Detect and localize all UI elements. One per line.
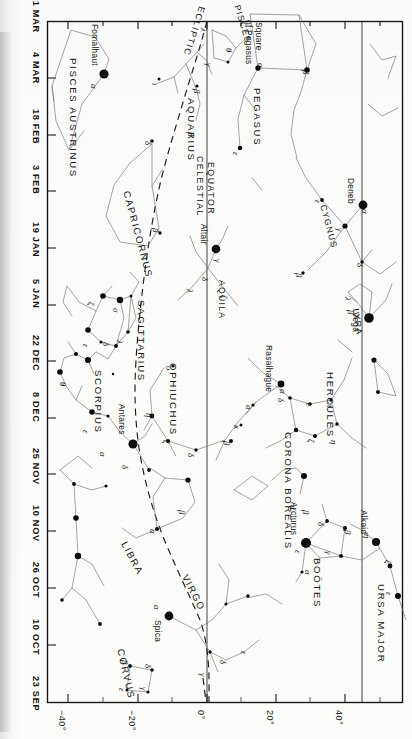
constellation-label-ophiuchus: OPHIUCHUS [168, 363, 178, 436]
bayer-label: δ [276, 398, 285, 402]
constellation-label-scorpius: SCORPIUS [93, 370, 103, 434]
ecliptic-curve-secondary [203, 678, 206, 702]
date-tick-label: 3 FEB [31, 165, 40, 195]
faint-star-layer [57, 61, 401, 694]
declination-tick-label: 40° [334, 710, 343, 725]
date-tick-label: 19 JAN [31, 222, 40, 257]
constellation-lines-libra [122, 468, 195, 538]
star-dot-antares [128, 439, 137, 448]
bayer-label: β [186, 132, 195, 136]
star-label-fomalhaut: Fomalhaut [91, 24, 99, 66]
date-tick-label: 26 OCT [31, 562, 40, 598]
bayer-label: β [301, 70, 310, 74]
star-label-altair: Altair [200, 224, 208, 245]
bayer-label: α [303, 570, 312, 575]
star-dot-alkaid [372, 538, 380, 546]
bayer-label: ε [231, 152, 240, 156]
star-label-spica: Spica [154, 620, 162, 642]
bayer-label: λ [115, 340, 124, 344]
bottom-axis-ticks [68, 694, 380, 702]
top-axis-ticks [68, 21, 380, 29]
date-tick-label: 10 OCT [31, 619, 40, 655]
declination-tick-label: 0° [196, 710, 205, 720]
bayer-label: β [192, 89, 201, 93]
constellation-lines-pisces [212, 30, 244, 62]
bayer-label: ζ [161, 440, 170, 444]
bayer-label: β [151, 228, 160, 232]
date-tick-label: 22 DEC [31, 335, 40, 371]
bayer-label: β [346, 310, 355, 314]
bayer-label: π [325, 403, 334, 408]
bayer-label: β [177, 510, 186, 514]
bayer-label: γ [198, 673, 207, 677]
bayer-label: γ [139, 687, 148, 691]
bayer-label: α [152, 605, 161, 610]
bayer-label: ε [117, 688, 126, 692]
date-tick-label: 8 DEC [31, 392, 40, 423]
bayer-label: α [244, 405, 253, 410]
bayer-label: δ [120, 465, 129, 469]
star-dot-rasalhague [278, 381, 285, 388]
bayer-label: ε [239, 651, 248, 655]
date-tick-label: 4 MAR [31, 52, 40, 84]
constellation-label-pisces-austrinus: PISCES AUSTRINUS [68, 58, 78, 178]
bayer-label: β [222, 441, 231, 445]
bayer-label: α [148, 529, 157, 534]
bayer-label: ι [150, 83, 159, 86]
date-tick-label: 10 NOV [31, 505, 40, 542]
star-dot-spica [165, 612, 174, 621]
bayer-label: α [360, 209, 369, 214]
star-chart: 21 MAR4 MAR18 FEB3 FEB19 JAN5 JAN22 DEC8… [0, 0, 412, 739]
bayer-label: ε [304, 403, 313, 407]
star-label-rasalhague: Rasalhague [265, 345, 273, 392]
bayer-label: α [98, 452, 107, 457]
bayer-label: γ [335, 228, 344, 232]
constellation-lines-pisces-austrinus [52, 30, 109, 150]
constellation-label-pegasus: PEGASUS [252, 88, 262, 146]
bayer-label: β [294, 273, 303, 277]
bayer-label: ζ [383, 560, 392, 564]
star-label-deneb: Deneb [347, 178, 355, 204]
bayer-label: ζ [306, 439, 315, 443]
bayer-label: θ [224, 48, 233, 52]
bayer-label: η [144, 413, 153, 417]
bayer-label: λ [199, 28, 208, 32]
bayer-label: δ [200, 277, 209, 281]
bayer-label: θ [58, 382, 67, 386]
bayer-label: υ [164, 366, 173, 370]
declination-tick-label: −40° [57, 710, 66, 731]
chart-canvas [0, 0, 412, 739]
declination-tick-label: −20° [127, 710, 136, 731]
constellation-label-of-pegasus: of Pegasus [245, 20, 253, 65]
bayer-label: γ [204, 63, 213, 67]
star-label-vega: Vega [352, 312, 360, 332]
bayer-label: ε [81, 430, 90, 434]
bayer-label: δ [218, 660, 227, 664]
star-dot-fomalhaut [99, 69, 108, 78]
bayer-label: δ [143, 664, 152, 668]
bayer-label: γ [324, 551, 333, 555]
bayer-label: β [343, 530, 352, 534]
chart-frame [48, 22, 403, 703]
bayer-label: ζ [86, 302, 95, 306]
bayer-label: ζ [219, 295, 228, 299]
star-label-antares: Antares [118, 404, 126, 435]
bayer-label: β [301, 510, 310, 514]
celestial-equator-label-line1: CELESTIAL [195, 156, 204, 217]
bayer-label: α [278, 389, 287, 394]
bayer-label: ε [313, 200, 322, 204]
star-dot-arcturus [301, 538, 311, 548]
bayer-label: κ [232, 425, 241, 429]
background-star-lines [60, 44, 398, 624]
date-tick-label: 5 JAN [31, 279, 40, 309]
bayer-label: α [89, 84, 98, 89]
bayer-label: λ [185, 289, 194, 293]
date-tick-label: 25 NOV [31, 448, 40, 485]
constellation-lines-ophiuchus [144, 358, 281, 460]
bayer-label: α [288, 505, 297, 510]
date-tick-label: 23 SEP [31, 676, 40, 711]
bayer-label: δ [143, 141, 152, 145]
date-tick-label: 21 MAR [31, 0, 40, 33]
bayer-label: δ [101, 342, 110, 346]
star-label-alkaid: Alkaid [360, 510, 368, 534]
